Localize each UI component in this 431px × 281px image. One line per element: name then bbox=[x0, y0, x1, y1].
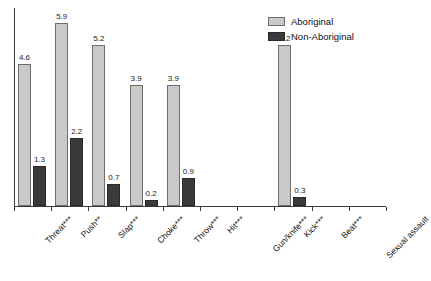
chart-legend: Aboriginal Non-Aboriginal bbox=[268, 15, 392, 45]
bar-value-label: 0.3 bbox=[294, 185, 305, 196]
bar-group bbox=[200, 8, 237, 206]
bar-group: 3.90.2 bbox=[126, 8, 163, 206]
bar-non-aboriginal: 2.2 bbox=[70, 138, 83, 206]
bar-non-aboriginal: 0.2 bbox=[145, 200, 158, 206]
bar-value-label: 3.9 bbox=[131, 73, 142, 84]
bar-aboriginal: 5.2 bbox=[92, 45, 105, 206]
category-label: Throw*** bbox=[192, 214, 223, 245]
x-axis-tick bbox=[386, 207, 387, 211]
bar-value-label: 1.3 bbox=[34, 154, 45, 165]
category-label: Beat*** bbox=[339, 214, 365, 240]
bar-value-label: 5.2 bbox=[93, 33, 104, 44]
bar-aboriginal: 5.2 bbox=[278, 45, 291, 206]
bar-non-aboriginal: 0.7 bbox=[107, 184, 120, 206]
bar-non-aboriginal: 0.9 bbox=[182, 178, 195, 206]
category-label: Sexual assault bbox=[384, 214, 430, 260]
bar-aboriginal: 3.9 bbox=[167, 85, 180, 206]
bar-value-label: 0.7 bbox=[108, 172, 119, 183]
category-labels: Threat***Push**Slap***Choke***Throw***Hi… bbox=[14, 208, 386, 281]
bar-aboriginal: 5.9 bbox=[55, 23, 68, 206]
bar-aboriginal: 3.9 bbox=[130, 85, 143, 206]
bar-value-label: 5.9 bbox=[56, 11, 67, 22]
legend-item-aboriginal: Aboriginal bbox=[268, 15, 392, 28]
bar-value-label: 4.6 bbox=[19, 52, 30, 63]
legend-label-aboriginal: Aboriginal bbox=[291, 16, 333, 27]
category-label: Slap*** bbox=[116, 214, 142, 240]
category-label: Hit*** bbox=[225, 214, 246, 235]
category-label: Choke*** bbox=[155, 214, 186, 245]
legend-swatch-aboriginal bbox=[268, 17, 285, 26]
bar-value-label: 3.9 bbox=[168, 73, 179, 84]
legend-item-non-aboriginal: Non-Aboriginal bbox=[268, 30, 392, 43]
bar-value-label: 0.2 bbox=[146, 188, 157, 199]
bar-value-label: 0.9 bbox=[183, 166, 194, 177]
legend-swatch-non-aboriginal bbox=[268, 32, 285, 41]
bar-aboriginal: 4.6 bbox=[18, 64, 31, 206]
bar-group: 5.20.7 bbox=[88, 8, 125, 206]
bar-group: 3.90.9 bbox=[163, 8, 200, 206]
legend-label-non-aboriginal: Non-Aboriginal bbox=[291, 31, 354, 42]
bar-group: 4.61.3 bbox=[14, 8, 51, 206]
category-label: Push** bbox=[78, 214, 103, 239]
category-label: Threat*** bbox=[43, 214, 74, 245]
bar-non-aboriginal: 1.3 bbox=[33, 166, 46, 206]
bar-group: 5.92.2 bbox=[51, 8, 88, 206]
bar-non-aboriginal: 0.3 bbox=[293, 197, 306, 206]
bar-value-label: 2.2 bbox=[71, 126, 82, 137]
